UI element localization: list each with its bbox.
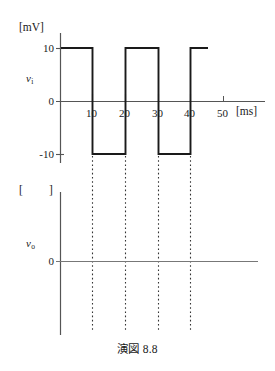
upper-plot-xtick-label-20: 20 [119,108,130,119]
output-signal-label: vo [26,238,35,249]
figure-caption: 演図 8.8 [0,344,275,356]
upper-plot-time-unit-label: [ms] [236,106,257,118]
lower-plot-group [56,192,258,335]
guide-lines-group [93,156,191,332]
input-signal-subscript: i [31,77,33,86]
lower-plot-unit-bracket-open: [ [19,185,23,197]
upper-plot-ytick-label-minus10: -10 [18,149,54,160]
input-signal-label: vi [26,73,33,84]
upper-plot-xtick-label-10: 10 [86,108,97,119]
upper-plot-xtick-label-30: 30 [152,108,163,119]
upper-plot-group [56,33,265,163]
lower-plot-unit-bracket-close: ] [49,185,53,197]
upper-plot-unit-label: [mV] [19,22,44,34]
upper-plot-xtick-label-40: 40 [184,108,195,119]
figure-container: [mV] 10 0 -10 vi 10 20 30 40 50 [ms] [ ]… [0,0,275,371]
figure-drawing [0,0,275,371]
output-signal-subscript: o [31,242,35,251]
upper-plot-ytick-label-10: 10 [24,43,54,54]
upper-plot-ytick-label-0: 0 [24,96,54,107]
lower-plot-ytick-label-0: 0 [24,256,54,267]
upper-plot-xtick-label-50: 50 [217,108,228,119]
